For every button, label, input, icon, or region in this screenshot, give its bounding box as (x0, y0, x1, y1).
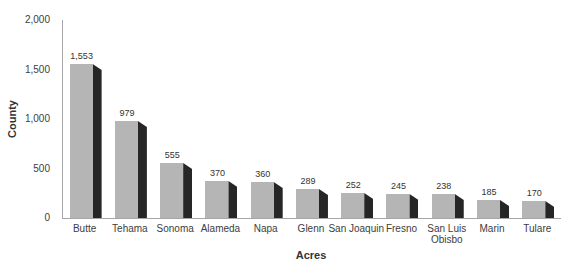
bar-value-label: 370 (210, 168, 225, 179)
bar (115, 121, 147, 218)
bar-side-shadow (364, 193, 373, 218)
y-axis-tick-labels: 05001,0001,5002,000 (0, 20, 56, 218)
bar-face (477, 200, 500, 218)
bar-face (432, 194, 455, 218)
category-slot: Marin (469, 223, 514, 245)
bar-side-shadow (228, 181, 237, 218)
bar-value-label: 252 (346, 180, 361, 191)
bar-slot: 1,553 (63, 20, 108, 218)
bar-slot: 170 (516, 20, 561, 218)
bar (296, 189, 328, 218)
bar-value-label: 1,553 (70, 51, 93, 62)
bar-face (251, 182, 274, 218)
bar-slot: 360 (244, 20, 289, 218)
bar-value-label: 360 (255, 169, 270, 180)
x-axis-title: Acres (62, 249, 560, 261)
y-tick-label: 1,500 (25, 64, 50, 76)
category-slot: San Joaquin (334, 223, 379, 245)
bar-slot: 238 (425, 20, 470, 218)
y-tick-label: 500 (33, 163, 50, 175)
bar-side-shadow (455, 194, 464, 218)
category-label: San Joaquin (328, 223, 384, 245)
bar-value-label: 289 (300, 176, 315, 187)
category-slot: Fresno (379, 223, 424, 245)
category-label: Butte (73, 223, 96, 245)
x-axis-category-labels: ButteTehamaSonomaAlamedaNapaGlennSan Joa… (62, 223, 560, 245)
bar-value-label: 185 (482, 187, 497, 198)
bar-slot: 185 (470, 20, 515, 218)
bar-face (341, 193, 364, 218)
category-label: Tehama (112, 223, 148, 245)
bar-side-shadow (500, 200, 509, 218)
bar-side-shadow (545, 201, 554, 218)
bar (70, 64, 102, 218)
category-slot: Alameda (198, 223, 243, 245)
bar-slot: 979 (108, 20, 153, 218)
bar (160, 163, 192, 218)
y-tick-label: 2,000 (25, 14, 50, 26)
bar-slot: 370 (199, 20, 244, 218)
bar (341, 193, 373, 218)
category-slot: Sonoma (153, 223, 198, 245)
bar (522, 201, 554, 218)
category-slot: Tehama (107, 223, 152, 245)
bar (432, 194, 464, 218)
bar-slot: 289 (289, 20, 334, 218)
bar (386, 194, 418, 218)
bar-value-label: 555 (165, 150, 180, 161)
bar-face (160, 163, 183, 218)
category-label: Marin (480, 223, 505, 245)
plot-area: 1,553979555370360289252245238185170 (62, 20, 561, 219)
bar-face (296, 189, 319, 218)
bar-face (70, 64, 93, 218)
bar (477, 200, 509, 218)
category-label: Tulare (523, 223, 551, 245)
bar-slot: 555 (154, 20, 199, 218)
bar-slot: 245 (380, 20, 425, 218)
bar-face (386, 194, 409, 218)
bar (205, 181, 237, 218)
bar-face (115, 121, 138, 218)
bar-value-label: 979 (119, 108, 134, 119)
y-tick-label: 1,000 (25, 113, 50, 125)
category-label: San Luis Obisbo (427, 223, 466, 245)
bar-side-shadow (409, 194, 418, 218)
bar-side-shadow (183, 163, 192, 218)
bar-side-shadow (319, 189, 328, 218)
category-label: Glenn (298, 223, 325, 245)
category-slot: Napa (243, 223, 288, 245)
bar-value-label: 170 (527, 188, 542, 199)
category-slot: Tulare (515, 223, 560, 245)
bars-layer: 1,553979555370360289252245238185170 (63, 20, 561, 218)
category-label: Sonoma (157, 223, 194, 245)
y-tick-label: 0 (44, 212, 50, 224)
bar-side-shadow (138, 121, 147, 218)
bar-slot: 252 (335, 20, 380, 218)
category-label: Fresno (386, 223, 417, 245)
bar-chart: County 05001,0001,5002,000 1,55397955537… (0, 0, 572, 274)
category-label: Alameda (201, 223, 240, 245)
bar-face (205, 181, 228, 218)
bar-side-shadow (274, 182, 283, 218)
category-slot: Butte (62, 223, 107, 245)
bar (251, 182, 283, 218)
bar-value-label: 238 (436, 181, 451, 192)
category-slot: Glenn (288, 223, 333, 245)
bar-face (522, 201, 545, 218)
bar-value-label: 245 (391, 181, 406, 192)
category-label: Napa (254, 223, 278, 245)
bar-side-shadow (93, 64, 102, 218)
category-slot: San Luis Obisbo (424, 223, 469, 245)
